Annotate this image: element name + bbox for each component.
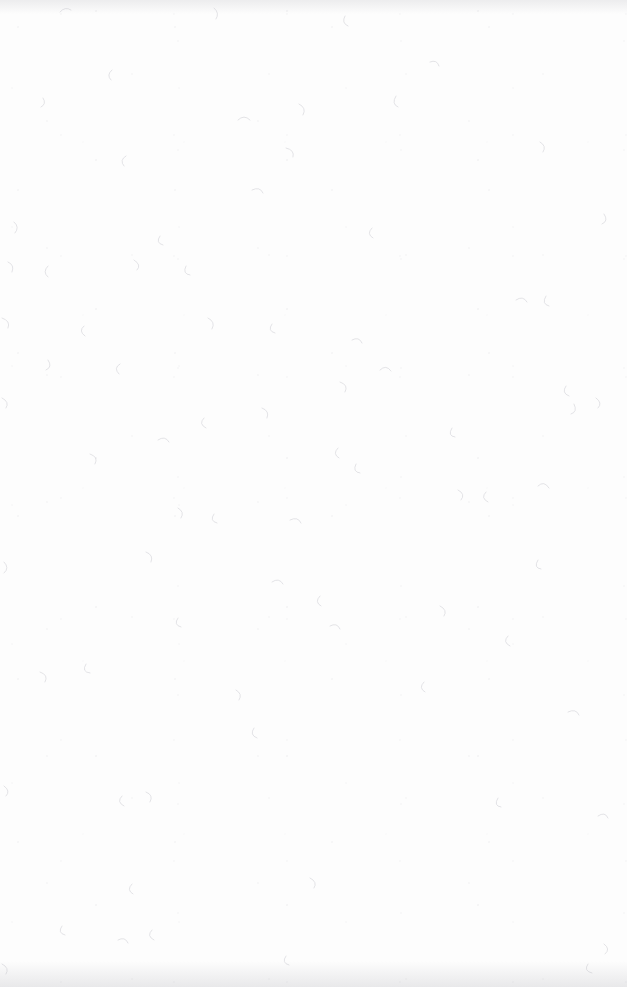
page-content-area (0, 0, 627, 987)
scanned-page (0, 0, 627, 987)
